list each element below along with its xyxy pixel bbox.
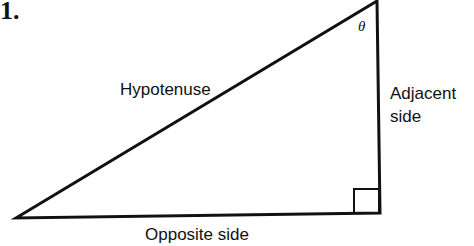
adjacent-label-line2: side <box>390 107 421 127</box>
angle-theta-label: θ <box>358 18 365 35</box>
adjacent-label-line1: Adjacent <box>390 84 456 104</box>
diagram-canvas: 1. θ Hypotenuse Adjacent side Opposite s… <box>0 0 474 246</box>
opposite-label: Opposite side <box>145 225 249 245</box>
triangle-outline <box>16 1 380 218</box>
hypotenuse-label: Hypotenuse <box>120 80 211 100</box>
right-angle-marker <box>354 189 379 213</box>
